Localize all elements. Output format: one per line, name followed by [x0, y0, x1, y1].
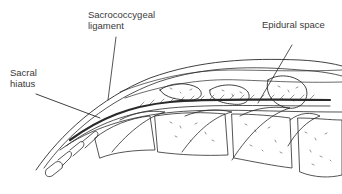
anatomical-diagram: Sacrococcygeal ligament Sacral hiatus Ep… [0, 0, 342, 194]
label-epidural-space: Epidural space [262, 20, 325, 31]
label-sacral-hiatus: Sacral hiatus [10, 68, 37, 89]
label-sacrococcygeal-ligament: Sacrococcygeal ligament [88, 10, 155, 31]
